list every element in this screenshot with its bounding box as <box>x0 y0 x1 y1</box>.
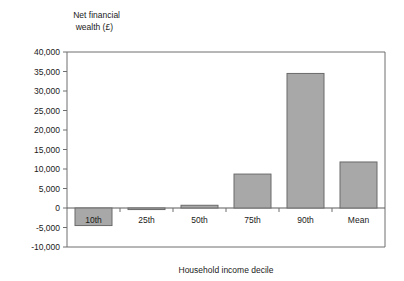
bar-50th <box>181 205 218 208</box>
y-tick-label: 40,000 <box>34 47 60 57</box>
x-axis-title: Household income decile <box>179 265 274 275</box>
y-tick-label: 25,000 <box>34 106 60 116</box>
bar-90th <box>287 73 324 208</box>
x-tick-label-mean: Mean <box>348 215 370 225</box>
bar-75th <box>234 174 271 208</box>
y-tick-label: 30,000 <box>34 86 60 96</box>
y-tick-label: 5,000 <box>39 184 61 194</box>
y-tick-label: 10,000 <box>34 164 60 174</box>
plot-frame <box>67 52 385 247</box>
x-tick-label-50th: 50th <box>191 215 208 225</box>
net-financial-wealth-bar-chart: Net financialwealth (£)40,00035,00030,00… <box>0 0 404 281</box>
y-axis-title-line2: wealth (£) <box>75 22 113 32</box>
x-tick-label-75th: 75th <box>244 215 261 225</box>
y-tick-label: 35,000 <box>34 67 60 77</box>
bar-mean <box>340 162 377 208</box>
x-tick-label-10th: 10th <box>85 215 102 225</box>
y-tick-label: 15,000 <box>34 145 60 155</box>
x-tick-label-90th: 90th <box>297 215 314 225</box>
bar-25th <box>128 208 165 210</box>
y-axis-title-line1: Net financial <box>73 10 120 20</box>
y-tick-label: -10,000 <box>31 242 60 252</box>
y-tick-label: -5,000 <box>36 223 60 233</box>
x-tick-label-25th: 25th <box>138 215 155 225</box>
y-tick-label: 0 <box>55 203 60 213</box>
chart-figure: Net financialwealth (£)40,00035,00030,00… <box>0 0 404 281</box>
y-tick-label: 20,000 <box>34 125 60 135</box>
